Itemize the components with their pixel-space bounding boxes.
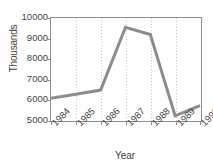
data-series-line <box>51 18 201 121</box>
y-tick-label: 7000 <box>12 74 48 84</box>
y-tick-label: 8000 <box>12 53 48 63</box>
y-tick-label: 6000 <box>12 94 48 104</box>
plot-area <box>50 17 202 122</box>
x-axis-title: Year <box>50 150 200 161</box>
y-tick-label: 9000 <box>12 33 48 43</box>
line-chart-figure: Thousands 10000 9000 8000 7000 6000 5000… <box>0 0 213 167</box>
x-axis-tick-labels: 1984 1985 1986 1987 1988 1989 1990 <box>50 121 200 151</box>
y-tick-label: 10000 <box>12 12 48 22</box>
y-axis-tick-labels: 10000 9000 8000 7000 6000 5000 <box>12 12 48 122</box>
y-tick-label: 5000 <box>12 115 48 125</box>
